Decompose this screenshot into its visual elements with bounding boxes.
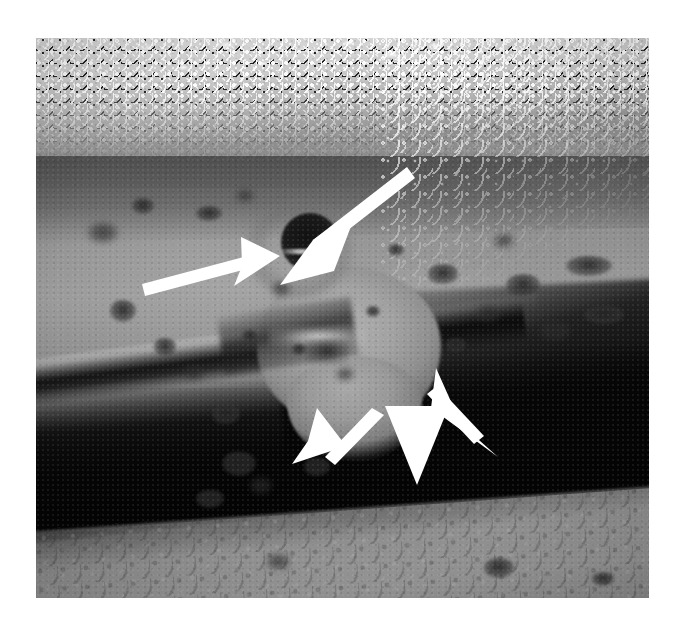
- mucosal-spot: [446, 338, 466, 352]
- mucosal-spot: [212, 404, 240, 424]
- mucosal-spot: [222, 452, 256, 476]
- mucosal-spot: [366, 306, 380, 317]
- mucosal-spot: [110, 300, 136, 322]
- mucosal-spot: [266, 554, 290, 570]
- mucosal-spot: [242, 330, 258, 342]
- mucosal-spot: [566, 256, 612, 276]
- mucosal-spot: [184, 366, 204, 380]
- mucosal-spot: [88, 223, 118, 243]
- mucosal-spot: [250, 478, 272, 494]
- mucosal-spot-layer: [36, 38, 649, 598]
- mucosal-spot: [476, 306, 500, 322]
- mucosal-spot: [584, 306, 624, 324]
- mucosal-spot: [428, 264, 458, 284]
- mucosal-spot: [236, 190, 254, 202]
- mucosal-spot: [540, 322, 570, 340]
- micrograph-image: [36, 38, 649, 598]
- mucosal-spot: [196, 206, 222, 221]
- mucosal-spot: [388, 244, 404, 256]
- figure-root: [0, 0, 680, 631]
- mucosal-spot: [336, 368, 354, 381]
- mucosal-spot: [494, 234, 514, 248]
- mucosal-spot: [154, 338, 176, 356]
- mucosal-spot: [272, 282, 290, 296]
- mucosal-spot: [506, 274, 540, 296]
- mucosal-spot: [484, 558, 514, 578]
- mucosal-spot: [304, 458, 330, 476]
- mucosal-spot: [292, 344, 306, 355]
- mucosal-spot: [196, 490, 224, 508]
- mucosal-spot: [132, 198, 154, 214]
- mucosal-spot: [592, 572, 614, 586]
